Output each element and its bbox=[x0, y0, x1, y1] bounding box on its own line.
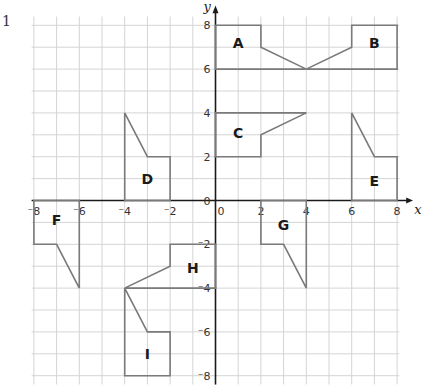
shape-label: B bbox=[369, 35, 380, 51]
axes: xy bbox=[32, 0, 422, 384]
origin-label: 0 bbox=[218, 205, 225, 218]
shape-label: D bbox=[142, 171, 154, 187]
y-axis-arrow-icon bbox=[213, 6, 219, 14]
y-tick-label: 8 bbox=[204, 19, 211, 32]
shape-label: G bbox=[278, 217, 290, 233]
x-axis-label: x bbox=[414, 202, 422, 217]
shape-label: E bbox=[370, 173, 380, 189]
x-tick-label: 6 bbox=[348, 205, 355, 218]
y-tick-label: ⁻8 bbox=[198, 370, 211, 383]
shape-label: C bbox=[233, 125, 243, 141]
x-tick-label: ⁻4 bbox=[118, 205, 131, 218]
x-tick-label: 8 bbox=[394, 205, 401, 218]
x-axis-arrow-icon bbox=[406, 198, 413, 204]
y-tick-label: 4 bbox=[204, 107, 211, 120]
y-tick-label: 2 bbox=[204, 151, 211, 164]
shape-label: F bbox=[52, 212, 62, 228]
coordinate-grid: xy ⁻8⁻6⁻4⁻2246886420⁻2⁻4⁻6⁻80 ABCDEFGHI bbox=[0, 0, 424, 392]
shape-label: H bbox=[187, 260, 199, 276]
x-tick-label: ⁻2 bbox=[164, 205, 177, 218]
y-tick-label: 6 bbox=[204, 63, 211, 76]
y-tick-label: 0 bbox=[204, 195, 211, 208]
y-axis-label: y bbox=[203, 0, 212, 14]
shape-label: I bbox=[145, 346, 150, 362]
y-tick-label: ⁻6 bbox=[198, 326, 211, 339]
shape-label: A bbox=[233, 35, 244, 51]
